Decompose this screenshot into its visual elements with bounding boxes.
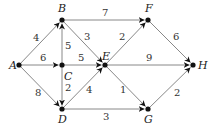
edge-A-D — [19, 65, 60, 106]
node-B — [59, 17, 64, 22]
node-label: E — [101, 50, 110, 63]
node-F — [145, 17, 150, 22]
edge-F-H — [148, 20, 191, 63]
edge-weight-label: 7 — [102, 7, 108, 18]
node-H — [190, 62, 195, 67]
nodes-layer: ABCDEFGH — [8, 2, 208, 126]
edge-weight-label: 2 — [174, 87, 180, 98]
edge-weight-label: 5 — [65, 40, 71, 51]
edge-weight-label: 4 — [33, 32, 39, 43]
node-label: G — [144, 113, 153, 126]
edge-weight-label: 3 — [103, 111, 109, 122]
edge-weight-label: 1 — [120, 84, 126, 95]
edge-weight-label: 8 — [35, 87, 41, 98]
graph-diagram: 468552374291362 ABCDEFGH — [0, 0, 210, 126]
edge-weight-label: 6 — [173, 31, 179, 42]
edge-weight-label: 4 — [86, 84, 92, 95]
node-E — [102, 62, 107, 67]
edge-weight-label: 2 — [119, 31, 125, 42]
node-label: C — [64, 70, 73, 83]
edge-weight-label: 6 — [40, 52, 46, 63]
edge-G-H — [148, 67, 190, 109]
edge-E-F — [105, 23, 146, 65]
node-A — [16, 62, 21, 67]
edge-weight-label: 5 — [78, 52, 84, 63]
node-label: B — [57, 2, 66, 15]
node-label: H — [197, 59, 208, 72]
node-D — [59, 106, 64, 111]
edge-weight-label: 3 — [84, 31, 90, 42]
node-C — [59, 62, 64, 67]
node-label: A — [8, 59, 17, 72]
edge-weight-label: 9 — [146, 52, 152, 63]
node-label: F — [144, 2, 153, 15]
node-label: D — [57, 113, 67, 126]
node-G — [145, 106, 150, 111]
edge-weight-label: 2 — [65, 82, 71, 93]
